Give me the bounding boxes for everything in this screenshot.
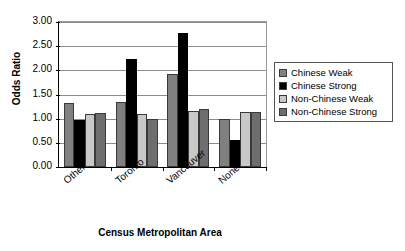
x-tick-mark [214,167,215,171]
y-tick-label: 2.50 [20,40,52,50]
bar-other-non-chinese-weak[interactable] [85,114,96,167]
bar-other-chinese-strong[interactable] [74,120,85,167]
y-tick-mark [56,167,60,168]
y-tick-label: 0.00 [20,161,52,171]
bar-toronto-non-chinese-strong[interactable] [147,119,158,167]
bar-group-other [64,22,106,167]
x-tick-mark [111,167,112,171]
y-tick-mark [56,46,60,47]
y-tick-mark [56,95,60,96]
y-tick-mark [56,119,60,120]
x-tick-mark [163,167,164,171]
y-tick-label: 2.00 [20,64,52,74]
bar-none-non-chinese-weak[interactable] [240,112,251,167]
legend-item-chinese-strong[interactable]: Chinese Strong [279,79,388,92]
legend-label: Chinese Strong [291,81,356,91]
plot-area [58,21,267,168]
y-tick-label: 0.50 [20,137,52,147]
y-axis-tick-labels: 0.000.501.001.502.002.503.00 [20,14,52,176]
legend-swatch-icon [279,95,287,103]
bar-none-chinese-weak[interactable] [219,119,230,167]
bar-vancouver-chinese-strong[interactable] [178,33,189,167]
odds-ratio-bar-chart: Odds Ratio 0.000.501.001.502.002.503.00 … [0,0,405,251]
bar-toronto-chinese-weak[interactable] [116,102,127,167]
bar-other-chinese-weak[interactable] [64,103,75,167]
y-tick-mark [56,22,60,23]
legend-label: Non-Chinese Weak [291,94,373,104]
x-tick-mark [266,167,267,171]
bar-vancouver-chinese-weak[interactable] [167,74,178,167]
legend-swatch-icon [279,108,287,116]
legend-item-non-chinese-strong[interactable]: Non-Chinese Strong [279,105,388,118]
legend-item-non-chinese-weak[interactable]: Non-Chinese Weak [279,92,388,105]
bar-none-non-chinese-strong[interactable] [251,112,262,167]
bar-group-none [219,22,261,167]
y-tick-label: 1.50 [20,89,52,99]
chart-legend: Chinese WeakChinese StrongNon-Chinese We… [274,62,393,122]
bar-group-vancouver [167,22,209,167]
x-axis-title: Census Metropolitan Area [40,227,280,238]
y-tick-label: 1.00 [20,113,52,123]
bar-toronto-chinese-strong[interactable] [126,59,137,167]
bar-group-toronto [116,22,158,167]
legend-label: Chinese Weak [291,68,353,78]
y-tick-mark [56,143,60,144]
legend-swatch-icon [279,69,287,77]
bar-other-non-chinese-strong[interactable] [95,113,106,167]
y-tick-label: 3.00 [20,16,52,26]
legend-item-chinese-weak[interactable]: Chinese Weak [279,66,388,79]
legend-swatch-icon [279,82,287,90]
legend-label: Non-Chinese Strong [291,107,377,117]
y-tick-mark [56,70,60,71]
